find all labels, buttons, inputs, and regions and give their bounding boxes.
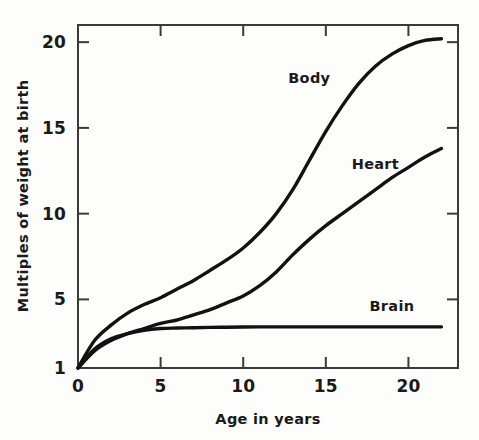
series-label-heart: Heart — [352, 156, 399, 172]
x-tick-label: 10 — [231, 376, 255, 396]
chart-canvas: 15101520 05101520 Age in years Multiples… — [0, 0, 479, 440]
series-annotations: BodyHeartBrain — [288, 70, 414, 314]
x-tick-label: 15 — [314, 376, 338, 396]
x-tick-label: 20 — [396, 376, 420, 396]
x-tick-label: 5 — [155, 376, 167, 396]
y-tick-label: 10 — [42, 204, 66, 224]
curve-body — [78, 39, 441, 368]
series-label-body: Body — [288, 70, 330, 86]
series-label-brain: Brain — [370, 298, 415, 314]
plot-frame — [78, 25, 458, 368]
x-axis-ticks — [161, 25, 409, 368]
y-tick-label: 1 — [54, 358, 66, 378]
y-tick-label: 20 — [42, 32, 66, 52]
x-axis-tick-labels: 05101520 — [72, 376, 420, 396]
y-tick-label: 5 — [54, 289, 66, 309]
curve-heart — [78, 148, 441, 368]
y-axis-tick-labels: 15101520 — [42, 32, 66, 378]
curve-brain — [78, 327, 441, 368]
y-tick-label: 15 — [42, 118, 66, 138]
x-tick-label: 0 — [72, 376, 84, 396]
y-axis-title: Multiples of weight at birth — [15, 80, 31, 313]
data-curves — [78, 39, 441, 368]
x-axis-title: Age in years — [215, 411, 320, 427]
growth-chart-figure: 15101520 05101520 Age in years Multiples… — [0, 0, 479, 440]
